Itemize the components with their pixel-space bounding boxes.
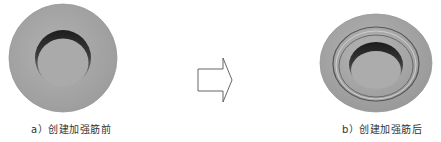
disc-before-illustration	[0, 0, 130, 115]
disc-after-illustration	[300, 0, 441, 118]
transition-arrow	[190, 52, 240, 108]
before-figure: a）创建加强筋前	[0, 0, 130, 142]
hollow-right-arrow-icon	[190, 52, 240, 108]
after-figure: b）创建加强筋后	[300, 0, 441, 142]
caption-after: b）创建加强筋后	[342, 121, 422, 136]
caption-before: a）创建加强筋前	[31, 121, 111, 136]
